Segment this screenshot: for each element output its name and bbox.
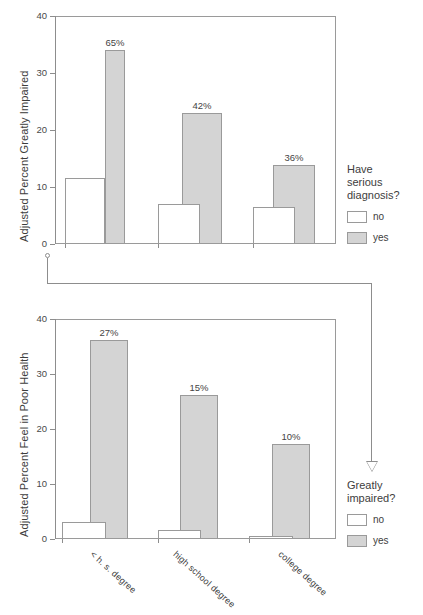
bottom-bar-no-1 [62,522,106,539]
connector-horizontal [47,283,371,284]
top-bar-yes-1 [105,50,125,244]
bottom-legend-label-no: no [373,515,384,525]
legend-swatch-no-icon [347,514,367,526]
top-xtick-1 [65,244,66,248]
top-legend-item-no[interactable]: no [347,211,400,223]
bottom-bar-yes-2 [180,395,218,539]
top-ytick-30 [50,73,55,74]
bottom-data-label-3: 10% [273,431,309,442]
top-legend-title-line1: Have [347,163,400,176]
top-bar-no-1 [65,178,105,244]
top-y-axis-title: Adjusted Percent Greatly Impaired [18,71,30,242]
connector-arrowhead-inner-icon [367,462,377,471]
bottom-ytick-30 [50,374,55,375]
legend-swatch-no-icon [347,211,367,223]
legend-swatch-yes-icon [347,232,367,244]
bottom-legend-title-line2: impaired? [347,492,395,505]
bottom-legend-item-yes[interactable]: yes [347,535,395,547]
top-legend-label-no: no [373,212,384,222]
bottom-xcat-label-3: college degree [276,549,329,598]
top-legend-title-line3: diagnosis? [347,189,400,202]
bottom-ytick-0 [50,539,55,540]
bottom-legend-title-line1: Greatly [347,479,395,492]
bottom-legend-label-yes: yes [373,536,389,546]
bottom-bar-yes-1 [90,340,128,539]
top-data-label-3: 36% [276,152,312,163]
top-ytick-10 [50,187,55,188]
bottom-legend: Greatly impaired? no yes [347,479,395,547]
bottom-xtick-2 [158,539,159,543]
top-data-label-2: 42% [184,100,220,111]
top-legend-label-yes: yes [373,233,389,243]
bottom-ytick-label-40: 40 [25,314,47,323]
top-data-label-1: 65% [97,37,133,48]
connector-vertical-left [47,258,48,284]
bottom-data-label-2: 15% [181,382,217,393]
bottom-xcat-label-1: < h. s. degree [88,549,138,595]
legend-swatch-yes-icon [347,535,367,547]
bottom-legend-item-no[interactable]: no [347,514,395,526]
bottom-bar-no-2 [158,530,201,539]
top-legend-title-line2: serious [347,176,400,189]
connector-vertical-right [371,283,372,463]
bottom-ytick-40 [50,319,55,320]
bottom-bar-yes-3 [272,444,310,539]
top-bar-no-3 [253,207,295,244]
top-y-axis [55,16,56,244]
top-legend: Have serious diagnosis? no yes [347,163,400,244]
top-ytick-20 [50,130,55,131]
top-xtick-3 [253,244,254,248]
bottom-xtick-3 [249,539,250,543]
top-ytick-0 [50,244,55,245]
bottom-xcat-label-2: high school degree [171,549,237,610]
bottom-data-label-1: 27% [91,327,127,338]
top-ytick-40 [50,16,55,17]
top-bar-no-2 [158,204,200,244]
top-xtick-2 [158,244,159,248]
bottom-y-axis-title: Adjusted Percent Feel in Poor Health [18,352,30,537]
bottom-ytick-20 [50,429,55,430]
bottom-xtick-1 [62,539,63,543]
top-legend-item-yes[interactable]: yes [347,232,400,244]
bottom-y-axis [55,319,56,539]
bottom-bar-no-3 [249,536,293,539]
top-ytick-label-40: 40 [25,11,47,20]
bottom-ytick-10 [50,484,55,485]
